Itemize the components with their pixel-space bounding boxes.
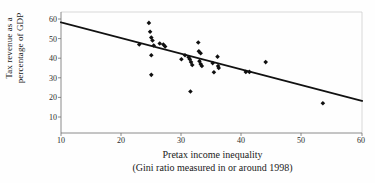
data-point <box>148 29 153 34</box>
x-axis-ticks <box>61 133 362 136</box>
data-series-layer <box>61 21 362 106</box>
x-axis-title-line1: Pretax income inequality <box>60 148 365 161</box>
x-axis-title: Pretax income inequality (Gini ratio mea… <box>60 148 365 174</box>
data-point <box>149 53 154 58</box>
scatter-chart-figure: Tax revenue as a percentage of GDP 60 50… <box>0 0 375 183</box>
trend-line <box>61 22 362 101</box>
data-point <box>321 101 326 106</box>
y-axis-ticks <box>58 19 61 117</box>
data-point <box>147 21 152 26</box>
data-point <box>179 57 184 62</box>
data-point <box>157 41 162 46</box>
data-point <box>212 70 217 75</box>
data-point <box>215 54 220 59</box>
data-point <box>149 73 154 78</box>
x-axis-title-line2: (Gini ratio measured in or around 1998) <box>60 161 365 174</box>
data-point <box>188 89 193 94</box>
data-point <box>196 40 201 45</box>
data-point <box>263 60 268 65</box>
